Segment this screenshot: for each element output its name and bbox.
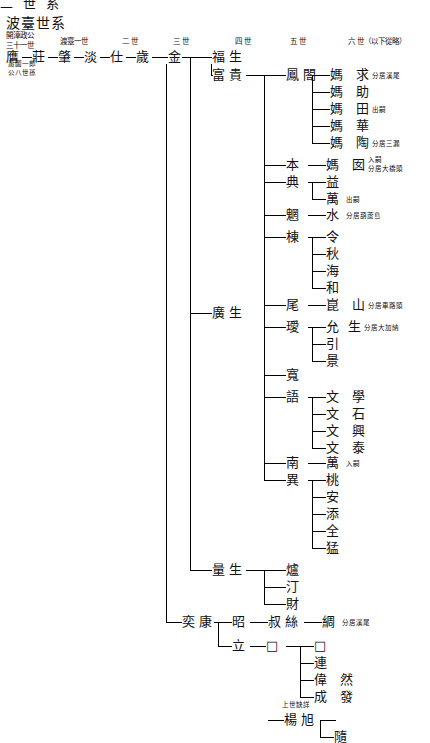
col-0-label: 開漳政公: [6, 32, 34, 40]
note-nan-2: 分居大橋頭: [368, 166, 403, 173]
node-nan: 囡: [352, 158, 365, 171]
node-zhu: 助: [356, 85, 369, 98]
node-ran: 然: [340, 673, 353, 686]
node-cheng: 成: [314, 690, 327, 703]
node-box1: □: [266, 639, 278, 652]
node-xue: 學: [352, 390, 365, 403]
node-hai: 海: [326, 264, 339, 277]
node-ma-hua: 媽: [330, 119, 343, 132]
root-note-1: 蕭圖一郎: [8, 61, 36, 68]
note-wan2: 入嗣: [346, 461, 360, 468]
note-qiu: 分居溪尾: [372, 73, 400, 80]
col-5-label: 五 世: [290, 38, 306, 46]
node-shan: 山: [352, 298, 365, 311]
node-ma-qiu: 媽: [330, 68, 343, 81]
node-nan2: 南: [286, 456, 299, 469]
node-shusi: 叔 絲: [268, 615, 298, 628]
page-title: 波臺世系: [6, 16, 66, 30]
node-wen-xing: 文: [326, 424, 339, 437]
node-box2: □: [314, 639, 326, 652]
node-wan2: 萬: [326, 456, 339, 469]
node-yin: 引: [326, 337, 339, 350]
node-tao: 陶: [356, 136, 369, 149]
node-tian: 田: [356, 102, 369, 115]
node-shi: 仕: [110, 50, 123, 63]
node-dian: 典: [286, 175, 299, 188]
node-ben: 本: [286, 158, 299, 171]
node-wang: 魍: [286, 208, 299, 221]
node-dong: 棟: [286, 230, 299, 243]
note-chou: 分居溪尾: [342, 620, 370, 627]
node-wen-tai: 文: [326, 441, 339, 454]
node-tai: 泰: [352, 441, 365, 454]
node-quan: 全: [326, 524, 339, 537]
col-6-label: 六 世（以下從略）: [348, 38, 406, 46]
node-ling: 令: [326, 230, 339, 243]
note-yunsheng: 分居大加納: [364, 325, 399, 332]
node-yun: 允: [326, 320, 339, 333]
node-ma-tian: 媽: [330, 102, 343, 115]
node-he: 和: [326, 281, 339, 294]
node-yi: 益: [326, 175, 339, 188]
note-tao: 分居三漏: [372, 141, 400, 148]
node-qiu: 求: [356, 68, 369, 81]
node-wen-xue: 文: [326, 390, 339, 403]
node-chou: 綢: [322, 615, 335, 628]
node-tao2: 桃: [326, 473, 339, 486]
node-ma-nan: 媽: [326, 158, 339, 171]
note-shui: 分居葫蘆島: [346, 213, 381, 220]
node-wen-shi: 文: [326, 407, 339, 420]
node-lian: 連: [314, 656, 327, 669]
node-shi2: 石: [352, 407, 365, 420]
node-fa: 發: [340, 690, 353, 703]
node-lu: 爐: [286, 563, 299, 576]
node-ting: 汀: [286, 580, 299, 593]
node-ai: 璦: [286, 320, 299, 333]
node-fugui: 富 貴: [212, 68, 242, 81]
col-4-label: 四 世: [235, 38, 251, 46]
root-note-2: 公八世孫: [8, 70, 36, 77]
col-3-label: 三 世: [173, 38, 189, 46]
node-xing: 興: [352, 424, 365, 437]
node-jin: 金: [168, 50, 181, 63]
footer-name: 楊 旭: [284, 713, 314, 726]
node-sheng: 生: [348, 320, 361, 333]
note-tian: 出嗣: [372, 107, 386, 114]
node-wei2: 偉: [314, 673, 327, 686]
node-fusheng: 福 生: [212, 50, 242, 63]
node-qiu2: 秋: [326, 247, 339, 260]
node-zhao: 肇: [58, 50, 71, 63]
node-cai: 財: [286, 597, 299, 610]
node-wan: 萬: [326, 192, 339, 205]
col-1-label: 渡臺一世: [60, 38, 88, 46]
genealogy-chart: 二 世 系 波臺世系 開漳政公 三十一世 渡臺一世 二 世 三 世 四 世 五 …: [0, 0, 430, 743]
node-kuan: 寬: [286, 368, 299, 381]
node-kun: 崑: [326, 298, 339, 311]
node-guangsheng: 廣 生: [212, 306, 242, 319]
node-ma-tao: 媽: [330, 136, 343, 149]
node-shui: 水: [326, 208, 339, 221]
footer-last: 隨: [334, 730, 347, 743]
node-dan: 淡: [84, 50, 97, 63]
node-meng: 猛: [326, 541, 339, 554]
node-wei: 尾: [286, 298, 299, 311]
node-tian2: 添: [326, 507, 339, 520]
node-jing: 景: [326, 354, 339, 367]
note-wan: 出嗣: [346, 197, 360, 204]
node-yikang: 奕 康: [182, 615, 212, 628]
node-an: 安: [326, 490, 339, 503]
col-2-label: 二 世: [122, 38, 138, 46]
footer-note: 上世缺詳: [282, 702, 310, 709]
clipped-header: 二 世 系: [0, 0, 62, 10]
node-yi2: 異: [286, 473, 299, 486]
node-yu: 語: [286, 390, 299, 403]
node-sui: 歲: [136, 50, 149, 63]
note-nan-1: 入嗣: [368, 157, 382, 164]
node-hua: 華: [356, 119, 369, 132]
note-kunshan: 分居車路頭: [368, 303, 403, 310]
node-ma-zhu: 媽: [330, 85, 343, 98]
node-liangsheng: 量 生: [212, 563, 242, 576]
node-zhao2: 昭: [232, 615, 245, 628]
node-li: 立: [232, 639, 245, 652]
